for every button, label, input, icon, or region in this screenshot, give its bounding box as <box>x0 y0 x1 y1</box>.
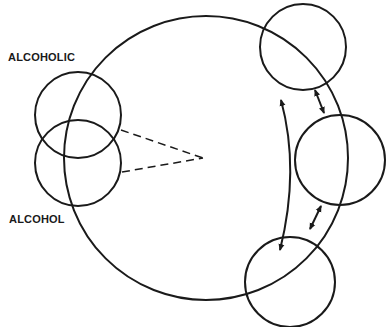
short-double-arrow-lower <box>310 206 321 229</box>
short-double-arrow-upper <box>315 90 324 113</box>
label-alcohol: ALCOHOL <box>9 213 65 225</box>
diagram-canvas <box>0 0 391 327</box>
middle-right-circle <box>295 115 385 205</box>
dashed-line-lower <box>122 158 203 172</box>
long-double-arrow <box>280 100 290 250</box>
big-circle <box>64 16 348 300</box>
top-right-circle <box>260 4 346 90</box>
alcohol-circle <box>35 120 121 206</box>
bottom-right-circle <box>245 237 335 327</box>
alcoholic-circle <box>35 72 121 158</box>
label-alcoholic: ALCOHOLIC <box>8 51 75 63</box>
dashed-line-upper <box>121 130 203 158</box>
